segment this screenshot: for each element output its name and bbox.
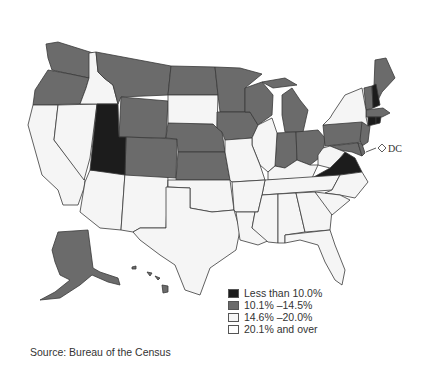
legend-label: 20.1% and over bbox=[244, 323, 318, 335]
state-wy[interactable] bbox=[119, 97, 168, 138]
dc-label: DC bbox=[388, 143, 402, 154]
legend-item-10-to-14-5: 10.1% –14.5% bbox=[228, 299, 322, 311]
legend-swatch bbox=[228, 301, 239, 310]
legend-item-14-6-to-20: 14.6% –20.0% bbox=[228, 311, 322, 323]
legend-swatch bbox=[228, 313, 239, 322]
state-co[interactable] bbox=[125, 137, 177, 178]
state-az[interactable] bbox=[80, 170, 125, 230]
state-fl[interactable] bbox=[285, 230, 345, 285]
source-note: Source: Bureau of the Census bbox=[30, 346, 171, 358]
state-sd[interactable] bbox=[168, 95, 218, 128]
state-nm[interactable] bbox=[121, 173, 168, 232]
state-ks[interactable] bbox=[176, 152, 230, 180]
dc-diamond-icon bbox=[378, 144, 386, 152]
state-ia[interactable] bbox=[217, 112, 258, 140]
legend-item-less-than-10: Less than 10.0% bbox=[228, 287, 322, 299]
state-ak[interactable] bbox=[40, 230, 120, 300]
legend: Less than 10.0% 10.1% –14.5% 14.6% –20.0… bbox=[228, 287, 322, 335]
dc-leader-line bbox=[366, 148, 376, 152]
state-hi[interactable] bbox=[132, 266, 168, 293]
state-nd[interactable] bbox=[168, 66, 218, 95]
state-ny[interactable] bbox=[323, 88, 368, 126]
legend-swatch bbox=[228, 289, 239, 298]
state-ri[interactable] bbox=[376, 117, 381, 124]
legend-label: 14.6% –20.0% bbox=[244, 311, 312, 323]
us-map: DC bbox=[0, 0, 427, 369]
legend-label: Less than 10.0% bbox=[244, 287, 322, 299]
legend-label: 10.1% –14.5% bbox=[244, 299, 312, 311]
state-ma[interactable] bbox=[366, 108, 390, 117]
state-ct[interactable] bbox=[368, 117, 376, 126]
legend-item-20-and-over: 20.1% and over bbox=[228, 323, 322, 335]
legend-swatch bbox=[228, 325, 239, 334]
